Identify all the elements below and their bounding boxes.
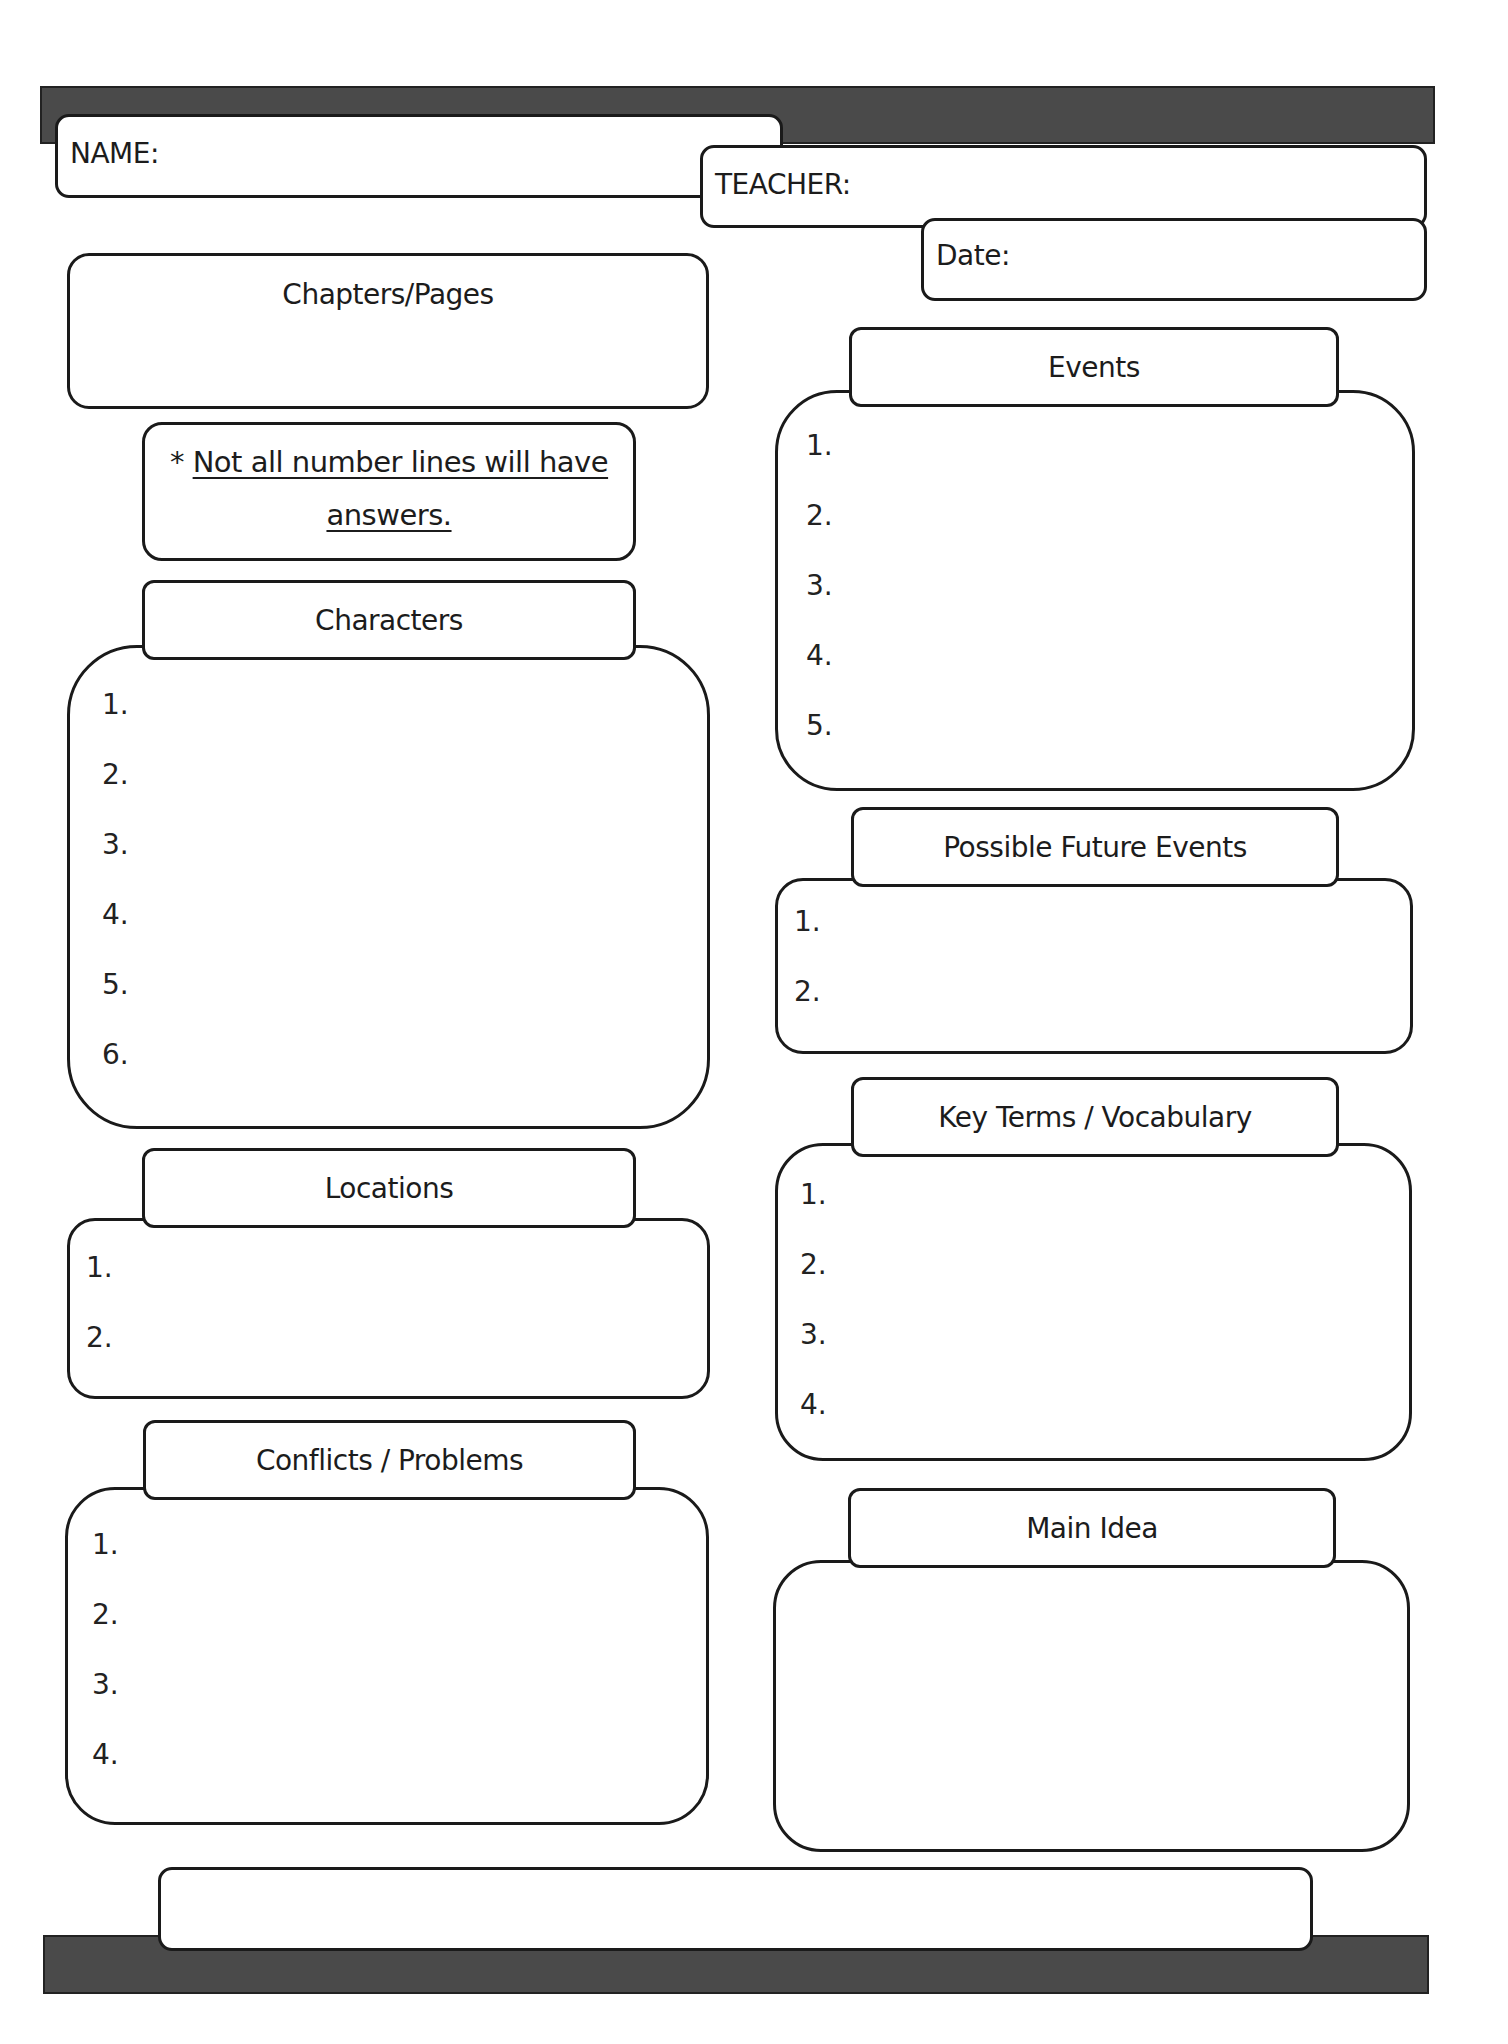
events-box[interactable]: 1. 2. 3. 4. 5.	[775, 390, 1415, 791]
characters-item-5: 5.	[102, 968, 129, 1001]
teacher-field[interactable]: TEACHER:	[700, 145, 1427, 228]
locations-box[interactable]: 1. 2.	[67, 1218, 710, 1399]
conflicts-header: Conflicts / Problems	[143, 1420, 636, 1500]
bottom-blank-box[interactable]	[158, 1867, 1313, 1951]
date-field[interactable]: Date:	[921, 218, 1427, 301]
main-idea-box[interactable]	[773, 1560, 1410, 1852]
note-text-2: answers.	[326, 498, 451, 532]
future-events-item-1: 1.	[794, 905, 821, 938]
main-idea-header: Main Idea	[848, 1488, 1336, 1568]
note-line-2: answers.	[145, 488, 633, 542]
conflicts-box[interactable]: 1. 2. 3. 4.	[65, 1487, 709, 1825]
locations-item-2: 2.	[86, 1321, 113, 1354]
events-item-4: 4.	[806, 639, 833, 672]
conflicts-item-1: 1.	[92, 1528, 119, 1561]
name-label: NAME:	[70, 137, 159, 170]
characters-item-1: 1.	[102, 688, 129, 721]
key-terms-item-4: 4.	[800, 1388, 827, 1421]
locations-header: Locations	[142, 1148, 636, 1228]
locations-item-1: 1.	[86, 1251, 113, 1284]
events-header: Events	[849, 327, 1339, 407]
future-events-item-2: 2.	[794, 975, 821, 1008]
characters-item-3: 3.	[102, 828, 129, 861]
note-text-1: Not all number lines will have	[193, 445, 608, 479]
events-item-3: 3.	[806, 569, 833, 602]
conflicts-item-3: 3.	[92, 1668, 119, 1701]
key-terms-item-3: 3.	[800, 1318, 827, 1351]
characters-item-4: 4.	[102, 898, 129, 931]
note-line-1: * Not all number lines will have	[145, 435, 633, 489]
note-box: * Not all number lines will have answers…	[142, 422, 636, 561]
conflicts-item-4: 4.	[92, 1738, 119, 1771]
future-events-box[interactable]: 1. 2.	[775, 878, 1413, 1054]
events-item-5: 5.	[806, 709, 833, 742]
characters-item-6: 6.	[102, 1038, 129, 1071]
key-terms-item-2: 2.	[800, 1248, 827, 1281]
chapters-pages-label: Chapters/Pages	[70, 278, 706, 311]
key-terms-header: Key Terms / Vocabulary	[851, 1077, 1339, 1157]
chapters-pages-box[interactable]: Chapters/Pages	[67, 253, 709, 409]
events-item-1: 1.	[806, 429, 833, 462]
characters-box[interactable]: 1. 2. 3. 4. 5. 6.	[67, 645, 710, 1129]
note-asterisk: *	[170, 445, 184, 479]
name-field[interactable]: NAME:	[55, 114, 783, 198]
events-item-2: 2.	[806, 499, 833, 532]
conflicts-item-2: 2.	[92, 1598, 119, 1631]
characters-header: Characters	[142, 580, 636, 660]
key-terms-item-1: 1.	[800, 1178, 827, 1211]
date-label: Date:	[936, 239, 1010, 272]
future-events-header: Possible Future Events	[851, 807, 1339, 887]
characters-item-2: 2.	[102, 758, 129, 791]
key-terms-box[interactable]: 1. 2. 3. 4.	[775, 1143, 1412, 1461]
teacher-label: TEACHER:	[715, 168, 851, 201]
